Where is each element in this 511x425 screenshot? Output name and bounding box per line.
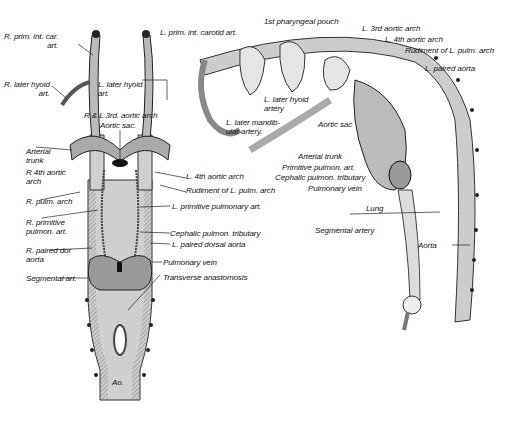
- label-l-paired-aorta: L. paired aorta: [425, 64, 475, 73]
- label-l-4th-aortic-arch: L. 4th aortic arch: [186, 172, 244, 181]
- label-pulmonary-vein: Pulmonary vein: [163, 258, 217, 267]
- label-l-prim-int-carotid-art: L. prim. int. carotid art.: [160, 28, 237, 37]
- label-1st-pharyngeal-pouch: 1st pharyngeal pouch: [264, 17, 339, 26]
- label-r-primitive-pulmon-art: R. primitivepulmon. art.: [26, 218, 67, 236]
- label-segmental-artery: Segmental artery: [315, 226, 374, 235]
- label-l-later-hyoid-artery: L. later hyoidartery: [264, 95, 308, 113]
- label-arterial-trunk: Arterial trunk: [298, 152, 342, 161]
- label-aortic-sac: Aortic sac.: [100, 121, 136, 130]
- label-r-pulm-arch: R. pulm. arch: [26, 197, 72, 206]
- label-r-4th-aortic-arch: R 4th aorticarch: [26, 168, 66, 186]
- label-cephalic-pulmon-tributary: Cephalic pulmon. tributary: [275, 173, 365, 182]
- label-l-primitive-pulmonary-art: L. primitive pulmonary art.: [172, 202, 261, 211]
- label-rudiment-l-pulm-arch: Rudiment of L. pulm. arch: [186, 186, 275, 195]
- label-r-prim-int-car-art: R. prim. int. car.art.: [4, 32, 58, 50]
- label-lung: Lung: [366, 204, 383, 213]
- label-segmental-art: Segmental art.: [26, 274, 77, 283]
- label-ao: Ao.: [112, 378, 124, 387]
- label-l-3rd-aortic-arch: L. 3rd aortic arch: [362, 24, 420, 33]
- label-l-paired-dorsal-aorta: L. paired dorsal aorta: [172, 240, 245, 249]
- label-primitive-pulmon-art: Primitive pulmon. art.: [282, 163, 355, 172]
- label-transverse-anastomosis: Transverse anastomosis: [163, 273, 247, 282]
- label-aortic-sac: Aortic sac: [318, 120, 352, 129]
- label-rl-3rd-aortic-arch: R & L 3rd. aortic arch: [84, 111, 157, 120]
- label-r-paired-dor-aorta: R. paired doraorta: [26, 246, 71, 264]
- label-arterial-trunk: Arterialtrunk: [26, 147, 51, 165]
- label-l-4th-aortic-arch: L. 4th aortic arch: [385, 35, 443, 44]
- label-cephalic-pulmon-tributary: Cephalic pulmon. tributary: [170, 229, 260, 238]
- label-l-later-mandibular-artery: L. later mandib-ular artery.: [226, 118, 280, 136]
- label-r-later-hyoid-art: R. later hyoidart.: [4, 80, 50, 98]
- label-rudiment-l-pulm-arch: Rudiment of L. pulm. arch: [405, 46, 494, 55]
- label-l-later-hyoid-art: L. later hyoidart.: [98, 80, 142, 98]
- label-aorta: Aorta: [418, 241, 437, 250]
- label-pulmonary-vein: Pulmonary vein: [308, 184, 362, 193]
